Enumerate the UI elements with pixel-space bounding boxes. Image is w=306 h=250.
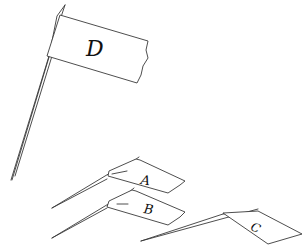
flag-a-label: A [139, 172, 151, 188]
flag-d-label: D [85, 36, 104, 61]
flags-illustration: D A B C [0, 0, 306, 250]
flag-c-banner [223, 211, 302, 244]
flag-b-label: B [142, 201, 155, 217]
flag-d: D [11, 5, 148, 180]
